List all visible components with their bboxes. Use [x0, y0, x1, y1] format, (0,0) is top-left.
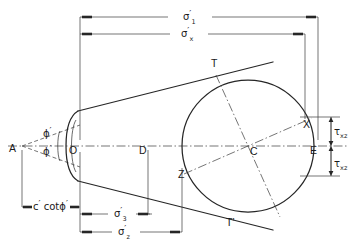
dimension-sigma3: σ′3	[80, 206, 150, 223]
failure-envelope-upper	[22, 62, 273, 146]
point-label-T: T	[211, 57, 218, 69]
label-tau-xz-lower: τxz	[334, 158, 348, 172]
label-phi-upper-group: ϕ′	[43, 126, 52, 139]
dimension-tau-lower: τxz	[329, 146, 348, 176]
label-sigma1: σ′1	[183, 9, 196, 26]
point-label-A: A	[9, 142, 16, 154]
failure-envelope-lower	[22, 146, 273, 230]
point-label-X: X	[303, 118, 310, 130]
point-label-D: D	[139, 144, 147, 156]
point-label-C: C	[250, 145, 258, 157]
dimension-cohesion-cot-phi: c′ cotϕ′	[22, 199, 80, 212]
label-sigmax: σ′x	[181, 26, 193, 43]
label-phi-upper: ϕ′	[43, 126, 52, 139]
label-c-cot-phi: c′ cotϕ′	[33, 199, 68, 212]
label-sigma3: σ′3	[114, 206, 127, 223]
label-phi-lower-group: ϕ′	[43, 144, 52, 157]
label-tau-xz-upper: τxz	[334, 126, 348, 140]
dimension-tau-upper: τxz	[329, 117, 348, 146]
label-sigmaz: σ′z	[118, 224, 130, 241]
label-phi-lower: ϕ′	[43, 144, 52, 157]
point-label-T-prime: T'	[226, 216, 234, 228]
point-label-E: E	[310, 144, 317, 156]
point-label-O: O	[69, 144, 77, 156]
mohr-circle-diagram: σ′1 σ′x σ′3	[0, 0, 353, 246]
dimension-sigma1: σ′1	[80, 9, 318, 26]
projection-lines	[22, 17, 340, 232]
dimension-sigmaz: σ′z	[80, 224, 182, 241]
point-label-Z: Z	[178, 168, 185, 180]
dimension-sigmax: σ′x	[80, 26, 305, 43]
